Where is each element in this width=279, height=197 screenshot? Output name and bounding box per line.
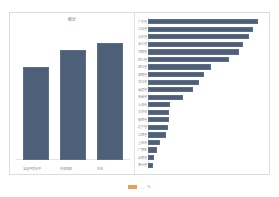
horizontal-bar-label: 四川省	[137, 58, 148, 62]
horizontal-bar-row: 重庆市	[137, 139, 263, 147]
horizontal-bar	[148, 19, 258, 24]
vertical-bar-label: 东部地区	[60, 167, 72, 171]
horizontal-bar-row: 江西省	[137, 131, 263, 139]
horizontal-bar-row: 贵州省	[137, 161, 263, 169]
horizontal-bar-label: 山东省	[137, 35, 148, 39]
horizontal-bar-track	[148, 41, 263, 49]
horizontal-bar-label: 河南省	[137, 50, 148, 54]
horizontal-bar-track	[148, 124, 263, 132]
horizontal-bar	[148, 42, 243, 47]
horizontal-bar-track	[148, 18, 263, 26]
vertical-bar-item: 全国平均水平	[23, 27, 49, 160]
horizontal-bar-track	[148, 146, 263, 154]
horizontal-bar-row: 山东省	[137, 33, 263, 41]
horizontal-bar-label: 福建省	[137, 88, 148, 92]
horizontal-bar-label: 云南省	[137, 156, 148, 160]
vertical-bar	[60, 50, 86, 160]
horizontal-bar	[148, 163, 153, 168]
vertical-bar-label: 全国平均水平	[23, 167, 41, 171]
horizontal-bar	[148, 72, 204, 77]
horizontal-bar-row: 广东省	[137, 18, 263, 26]
horizontal-bar-track	[148, 93, 263, 101]
vertical-chart-plot: 全国平均水平东部地区本市	[18, 27, 128, 160]
horizontal-bar-label: 北京市	[137, 110, 148, 114]
horizontal-bar-track	[148, 78, 263, 86]
vertical-bar-label: 本市	[97, 167, 103, 171]
horizontal-bar	[148, 57, 229, 62]
horizontal-bar	[148, 132, 166, 137]
vertical-bar-item: 本市	[97, 27, 123, 160]
vertical-bar	[23, 67, 49, 160]
horizontal-bar-row: 陕西省	[137, 116, 263, 124]
horizontal-bar-track	[148, 26, 263, 34]
horizontal-chart-plot: 广东省江苏省山东省浙江省河南省四川省湖北省湖南省河北省福建省安徽省上海市北京市陕…	[137, 18, 263, 169]
horizontal-bar-row: 湖北省	[137, 63, 263, 71]
horizontal-bar-track	[148, 71, 263, 79]
horizontal-bar-row: 安徽省	[137, 93, 263, 101]
horizontal-bar	[148, 102, 170, 107]
horizontal-bar-label: 广东省	[137, 20, 148, 24]
horizontal-bar-label: 上海市	[137, 103, 148, 107]
horizontal-bar-row: 辽宁省	[137, 124, 263, 132]
horizontal-bar-track	[148, 56, 263, 64]
horizontal-bar-row: 上海市	[137, 101, 263, 109]
vertical-bar	[97, 43, 123, 160]
horizontal-bar-row: 广西区	[137, 146, 263, 154]
horizontal-bar	[148, 87, 193, 92]
horizontal-bar-track	[148, 109, 263, 117]
horizontal-bar-track	[148, 33, 263, 41]
vertical-bar-chart: 统计 全国平均水平东部地区本市	[10, 13, 135, 174]
horizontal-bar-label: 安徽省	[137, 95, 148, 99]
horizontal-bar	[148, 34, 249, 39]
horizontal-bar	[148, 64, 211, 69]
horizontal-bar	[148, 80, 199, 85]
horizontal-bar-label: 辽宁省	[137, 125, 148, 129]
horizontal-bar-label: 江苏省	[137, 27, 148, 31]
chart-footer-legend: — %	[0, 180, 279, 194]
dashboard-root: 统计 全国平均水平东部地区本市 广东省江苏省山东省浙江省河南省四川省湖北省湖南省…	[0, 0, 279, 197]
horizontal-bar-track	[148, 116, 263, 124]
horizontal-bar-label: 河北省	[137, 80, 148, 84]
horizontal-bar-label: 湖南省	[137, 73, 148, 77]
charts-panel: 统计 全国平均水平东部地区本市 广东省江苏省山东省浙江省河南省四川省湖北省湖南省…	[9, 12, 270, 175]
horizontal-bar-track	[148, 86, 263, 94]
horizontal-bar-track	[148, 154, 263, 162]
horizontal-bar	[148, 155, 154, 160]
horizontal-bar	[148, 117, 169, 122]
horizontal-bar	[148, 49, 239, 54]
horizontal-bar	[148, 27, 253, 32]
horizontal-bar	[148, 110, 169, 115]
horizontal-bar-label: 江西省	[137, 133, 148, 137]
legend-color-swatch	[128, 185, 137, 189]
horizontal-bar	[148, 95, 183, 100]
horizontal-bar-label: 湖北省	[137, 65, 148, 69]
horizontal-bar-track	[148, 131, 263, 139]
horizontal-bar-row: 云南省	[137, 154, 263, 162]
vertical-bar-group: 全国平均水平东部地区本市	[18, 27, 128, 160]
horizontal-bar-label: 重庆市	[137, 141, 148, 145]
vertical-bar-item: 东部地区	[60, 27, 86, 160]
horizontal-bar	[148, 147, 157, 152]
horizontal-bar-track	[148, 139, 263, 147]
horizontal-bar-track	[148, 161, 263, 169]
horizontal-bar-label: 贵州省	[137, 163, 148, 167]
horizontal-bar-track	[148, 48, 263, 56]
horizontal-bar-track	[148, 101, 263, 109]
legend-unit-label: %	[147, 185, 150, 190]
horizontal-bar-row: 河北省	[137, 78, 263, 86]
horizontal-bar-track	[148, 63, 263, 71]
horizontal-bar-row: 福建省	[137, 86, 263, 94]
horizontal-bar-row: 北京市	[137, 109, 263, 117]
legend-separator: —	[140, 185, 144, 190]
horizontal-bar-label: 陕西省	[137, 118, 148, 122]
horizontal-bar-row: 江苏省	[137, 26, 263, 34]
horizontal-bar	[148, 125, 168, 130]
vertical-chart-title: 统计	[10, 17, 134, 22]
horizontal-bar-chart: 广东省江苏省山东省浙江省河南省四川省湖北省湖南省河北省福建省安徽省上海市北京市陕…	[135, 13, 269, 174]
horizontal-bar-row: 湖南省	[137, 71, 263, 79]
horizontal-bar-label: 广西区	[137, 148, 148, 152]
horizontal-bar-row: 河南省	[137, 48, 263, 56]
horizontal-bar-row: 四川省	[137, 56, 263, 64]
horizontal-bar-row: 浙江省	[137, 41, 263, 49]
horizontal-bar-label: 浙江省	[137, 42, 148, 46]
